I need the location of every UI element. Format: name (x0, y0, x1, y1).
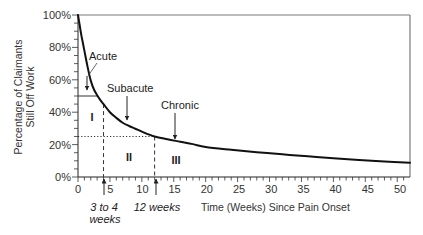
x-tick-label: 25 (233, 183, 245, 195)
axis-ticks (72, 15, 404, 182)
x-tick-label: 15 (168, 183, 180, 195)
x-tick-label: 0 (75, 183, 81, 195)
x-tick-label: 20 (201, 183, 213, 195)
region-label-i: I (90, 111, 93, 123)
x-tick-label: 45 (362, 183, 374, 195)
y-axis-title-line-1: Percentage of Claimants (12, 40, 24, 155)
y-tick-label: 100% (43, 9, 71, 21)
marker-label-line-1: 3 to 4 (90, 201, 118, 213)
y-tick-labels: 100% 80% 60% 40% 20% 0% (43, 9, 71, 183)
subacute-label: Subacute (107, 82, 153, 94)
y-tick-label: 60% (49, 74, 71, 86)
reference-lines (78, 96, 155, 177)
y-tick-label: 40% (49, 106, 71, 118)
acute-label: Acute (89, 50, 117, 62)
acute-leader-line (88, 63, 97, 76)
marker-label: 12 weeks (134, 201, 181, 213)
region-label-iii: III (171, 154, 180, 166)
phase-annotation-chronic: Chronic (161, 99, 199, 139)
y-tick-label: 80% (49, 41, 71, 53)
x-tick-labels: 0 5 10 15 20 25 30 35 40 45 50 (75, 183, 406, 195)
x-tick-label: 5 (107, 183, 113, 195)
y-tick-label: 0% (55, 171, 71, 183)
x-tick-label: 50 (394, 183, 406, 195)
phase-annotation-subacute: Subacute (107, 82, 153, 120)
x-tick-label: 40 (329, 183, 341, 195)
marker-label-line-2: weeks (89, 213, 121, 225)
y-axis-title-line-2: Still Off Work (24, 66, 36, 128)
marker-3-to-4-weeks: 3 to 4 weeks (89, 179, 121, 225)
y-tick-label: 20% (49, 139, 71, 151)
x-tick-label: 30 (265, 183, 277, 195)
x-axis-title: Time (Weeks) Since Pain Onset (201, 201, 350, 213)
chronic-label: Chronic (161, 99, 199, 111)
return-to-work-chart: Percentage of Claimants Still Off Work 1… (0, 0, 423, 235)
figure: Percentage of Claimants Still Off Work 1… (0, 0, 423, 235)
y-axis-title: Percentage of Claimants Still Off Work (12, 40, 36, 155)
region-label-ii: II (126, 151, 132, 163)
x-tick-label: 35 (297, 183, 309, 195)
x-tick-label: 10 (136, 183, 148, 195)
